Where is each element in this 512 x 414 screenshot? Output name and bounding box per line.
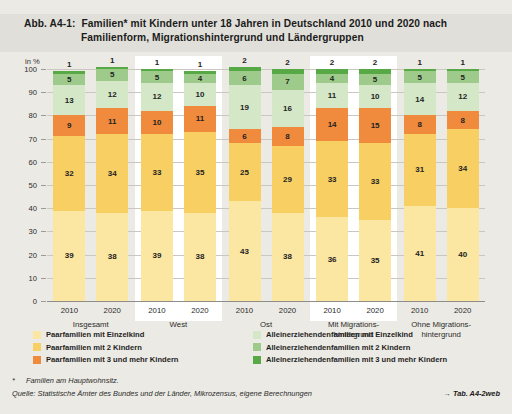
bar-segment[interactable]: 8 [404,115,436,134]
bar-segment[interactable]: 33 [141,134,173,211]
bar-segment[interactable]: 38 [96,213,128,301]
bar-segment[interactable]: 4 [184,74,216,83]
bar-segment[interactable]: 10 [141,111,173,134]
bar-segment-value: 16 [283,104,292,113]
bar-segment-value: 5 [155,73,159,82]
bar-segment[interactable] [272,69,304,74]
bar-segment[interactable] [359,69,391,74]
x-axis-year-label: 2010 [46,306,92,315]
bar-segment[interactable] [96,67,128,69]
legend-swatch [33,331,41,339]
y-axis-tick-mark [41,69,46,70]
bar-segment-value: 39 [65,251,74,260]
figure-number: Abb. A4-1: [24,18,76,29]
bar-segment[interactable]: 31 [404,134,436,206]
x-axis-year-label: 2020 [89,306,135,315]
bar-segment[interactable]: 19 [229,85,261,129]
bar-segment[interactable] [184,71,216,73]
bar-segment[interactable] [53,71,85,73]
stacked-bar[interactable]: 383411125 [96,69,128,301]
bar-segment[interactable]: 8 [447,111,479,130]
bar-segment[interactable]: 29 [272,146,304,213]
stacked-bar[interactable]: 353315105 [359,69,391,301]
bar-segment[interactable] [447,69,479,71]
x-axis-year-label: 2020 [265,306,311,315]
legend-item-paarfamilien[interactable]: Paarfamilien mit Einzelkind [33,330,144,339]
bar-segment[interactable]: 11 [316,83,348,109]
source-note: Quelle: Statistische Ämter des Bundes un… [12,389,312,398]
bar-segment[interactable]: 41 [404,206,436,301]
bar-segment[interactable] [141,69,173,71]
bar-segment[interactable]: 39 [53,211,85,301]
bar-segment[interactable]: 43 [229,201,261,301]
bar-segment[interactable]: 36 [316,217,348,301]
stacked-bar[interactable]: 40348125 [447,69,479,301]
bar-segment[interactable]: 35 [359,220,391,301]
bar-segment[interactable]: 10 [359,85,391,108]
bar-segment[interactable]: 5 [447,71,479,83]
bar-segment[interactable]: 39 [141,211,173,301]
bar-segment[interactable] [404,69,436,71]
bar-segment-value: 11 [196,114,204,123]
bar-segment[interactable]: 10 [184,83,216,106]
bar-segment[interactable]: 33 [359,143,391,220]
legend-item-paarfamilien[interactable]: Paarfamilien mit 2 Kindern [33,343,142,352]
bar-segment[interactable]: 5 [141,71,173,83]
bar-segment[interactable]: 40 [447,208,479,301]
legend-item-alleinerziehende[interactable]: Alleinerziehendenfamilien mit 3 und mehr… [253,355,447,364]
bar-segment[interactable]: 15 [359,108,391,143]
bar-segment[interactable]: 11 [96,108,128,134]
stacked-bar[interactable]: 39329135 [53,69,85,301]
bar-segment[interactable] [316,69,348,74]
stacked-bar[interactable]: 41318145 [404,69,436,301]
bar-top-value: 1 [96,56,128,65]
bar-segment[interactable]: 8 [272,127,304,146]
bar-segment[interactable]: 14 [404,83,436,115]
bar-segment[interactable]: 14 [316,108,348,140]
x-axis-year-label: 2020 [440,306,486,315]
bar-segment-value: 19 [240,103,249,112]
bar-segment[interactable]: 32 [53,136,85,210]
stacked-bar[interactable]: 393310125 [141,69,173,301]
legend-item-alleinerziehende[interactable]: Alleinerziehendenfamilien mit 2 Kindern [253,343,410,352]
table-reference-link[interactable]: → Tab. A4-2web [443,389,500,398]
bar-segment[interactable]: 7 [272,74,304,90]
stacked-bar[interactable]: 363314114 [316,69,348,301]
bar-segment-value: 5 [67,75,71,84]
bar-segment[interactable]: 9 [53,115,85,136]
bar-segment-value: 6 [242,74,246,83]
stacked-bar[interactable]: 43256196 [229,69,261,301]
bar-segment[interactable]: 16 [272,90,304,127]
gridline [47,301,485,302]
bar-segment[interactable]: 25 [229,143,261,201]
bar-segment[interactable]: 12 [96,81,128,109]
legend-item-alleinerziehende[interactable]: Alleinerziehendenfamilien mit Einzelkind [253,330,413,339]
y-axis-tick-mark [41,92,46,93]
bar-segment[interactable]: 12 [447,83,479,111]
stacked-bar[interactable]: 383511104 [184,69,216,301]
bar-segment[interactable] [229,67,261,72]
bar-segment[interactable]: 6 [229,71,261,85]
bar-top-value: 1 [184,60,216,69]
bar-segment[interactable]: 13 [53,85,85,115]
bar-segment[interactable]: 38 [272,213,304,301]
bar-segment-value: 10 [195,90,204,99]
bar-segment[interactable]: 38 [184,213,216,301]
bar-segment[interactable]: 12 [141,83,173,111]
footnote-text: Familien am Hauptwohnsitz. [26,376,119,385]
bar-segment[interactable]: 33 [316,141,348,218]
figure-title-line-2: Familienform, Migrationshintergrund und … [24,31,494,45]
bar-segment[interactable]: 5 [96,69,128,81]
bar-segment[interactable]: 5 [404,71,436,83]
legend-item-paarfamilien[interactable]: Paarfamilien mit 3 und mehr Kindern [33,355,179,364]
bar-segment[interactable]: 6 [229,129,261,143]
bar-segment[interactable]: 5 [53,74,85,86]
bar-segment[interactable]: 4 [316,74,348,83]
bar-segment[interactable]: 5 [359,74,391,86]
bar-segment[interactable]: 35 [184,132,216,213]
bar-segment[interactable]: 11 [184,106,216,132]
y-axis-tick-label: 10 [11,273,37,282]
bar-segment[interactable]: 34 [96,134,128,213]
stacked-bar[interactable]: 38298167 [272,69,304,301]
bar-segment[interactable]: 34 [447,129,479,208]
